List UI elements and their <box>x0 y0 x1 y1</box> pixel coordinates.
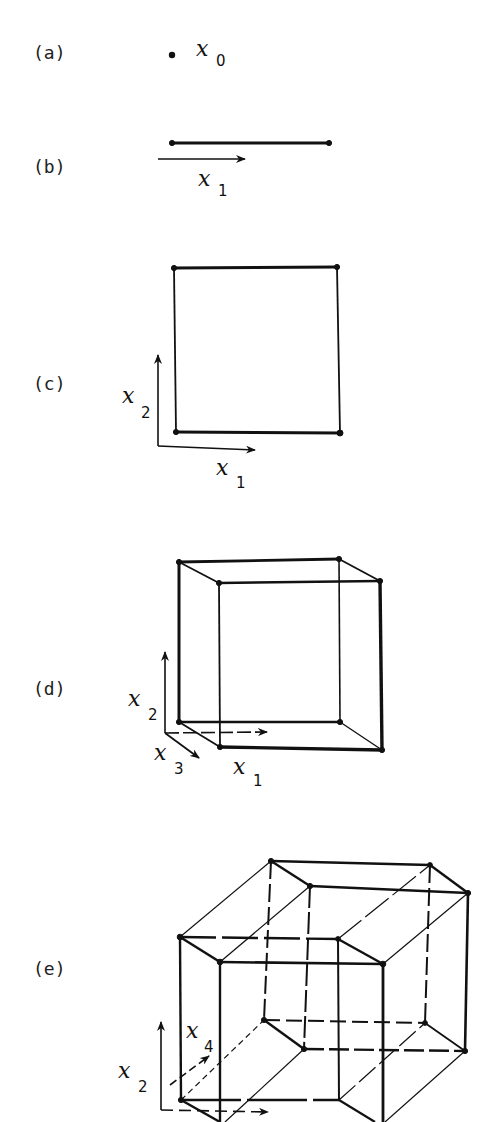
axis-label-x1: x <box>216 455 229 480</box>
axis-subscript: 1 <box>236 474 246 492</box>
axis-subscript: 1 <box>253 772 263 790</box>
hypercube-figure: x 0 x 1 x 2 x 1 <box>0 0 499 1122</box>
axis-label-x: x <box>196 36 209 61</box>
panel-b-segment <box>158 140 332 159</box>
axis-label-x2: x <box>118 1058 131 1083</box>
axis-subscript: 0 <box>216 52 226 70</box>
axis-label-x2: x <box>128 686 141 711</box>
axis-label-x2: x <box>122 383 135 408</box>
axis-subscript: 2 <box>138 1078 148 1096</box>
axis-label-x3: x <box>154 740 167 765</box>
axis-label-x1: x <box>198 166 211 191</box>
axis-subscript: 3 <box>174 760 184 778</box>
axis-subscript: 1 <box>218 182 228 200</box>
axis-subscript: 2 <box>141 404 151 422</box>
panel-c-square <box>158 264 343 450</box>
axis-subscript: 4 <box>204 1038 214 1056</box>
panel-d-cube <box>165 556 385 758</box>
panel-e-tesseract <box>161 858 471 1122</box>
axis-label-x1: x <box>233 754 246 779</box>
axis-label-x4: x <box>186 1018 199 1043</box>
panel-a-point: x 0 <box>169 36 226 70</box>
axis-subscript: 2 <box>148 706 158 724</box>
